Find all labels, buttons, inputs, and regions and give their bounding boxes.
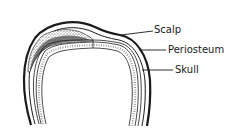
label-periosteum: Periosteum xyxy=(168,45,224,55)
scalp-leader-line xyxy=(121,31,153,35)
diagram-artwork xyxy=(0,0,234,140)
head-cross-section-diagram: Scalp Periosteum Skull xyxy=(0,0,234,140)
skull-inner-line xyxy=(42,48,132,126)
label-scalp: Scalp xyxy=(154,25,181,35)
skull-diploe xyxy=(39,45,135,126)
label-skull: Skull xyxy=(175,65,199,75)
